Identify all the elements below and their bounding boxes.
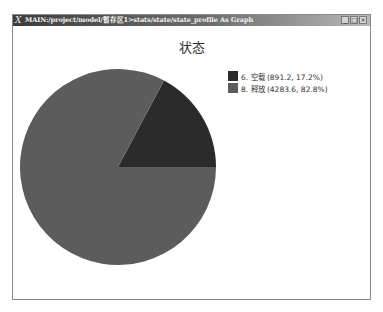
pie-chart: [0, 0, 383, 312]
